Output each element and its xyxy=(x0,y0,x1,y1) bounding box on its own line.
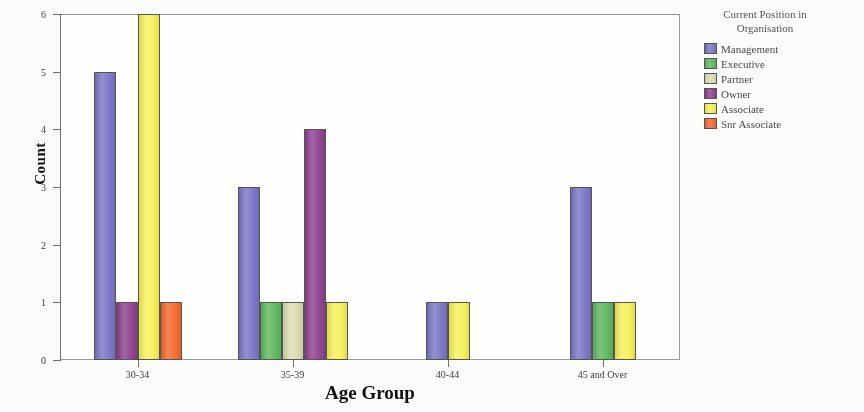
bar xyxy=(426,302,448,360)
y-axis-tick-label: 3 xyxy=(20,182,46,193)
legend-item-label: Partner xyxy=(721,73,753,85)
legend-item-label: Associate xyxy=(721,103,764,115)
legend-swatch-icon xyxy=(704,103,717,114)
bar-chart-figure: Count 0123456 30-3435-3940-4445 and Over… xyxy=(0,0,864,412)
bar xyxy=(304,129,326,360)
y-axis-tick-label: 2 xyxy=(20,239,46,250)
y-axis-tick-label: 0 xyxy=(20,355,46,366)
x-axis-tick xyxy=(138,360,139,367)
legend-item: Executive xyxy=(704,57,862,71)
legend-item: Management xyxy=(704,42,862,56)
x-axis-tick-label: 45 and Over xyxy=(578,369,627,380)
bars-layer xyxy=(60,14,680,360)
bar xyxy=(614,302,636,360)
x-axis-tick xyxy=(603,360,604,367)
bar xyxy=(448,302,470,360)
x-axis-tick-label: 30-34 xyxy=(126,369,149,380)
x-axis-tick-label: 40-44 xyxy=(436,369,459,380)
legend-item: Snr Associate xyxy=(704,117,862,131)
legend-item-label: Executive xyxy=(721,58,765,70)
bar xyxy=(238,187,260,360)
y-axis-tick xyxy=(53,360,61,361)
bar xyxy=(160,302,182,360)
legend-swatch-icon xyxy=(704,118,717,129)
legend-swatch-icon xyxy=(704,88,717,99)
bar xyxy=(326,302,348,360)
legend-item-label: Management xyxy=(721,43,778,55)
y-axis-tick-label: 6 xyxy=(20,9,46,20)
bar xyxy=(570,187,592,360)
bar xyxy=(138,14,160,360)
bar xyxy=(282,302,304,360)
legend-swatch-icon xyxy=(704,73,717,84)
x-axis-title: Age Group xyxy=(60,382,680,404)
x-axis-tick-label: 35-39 xyxy=(281,369,304,380)
bar xyxy=(116,302,138,360)
legend-title-line-1: Current Position in xyxy=(690,8,840,22)
legend-items: ManagementExecutivePartnerOwnerAssociate… xyxy=(704,42,862,131)
legend: Current Position in Organisation Managem… xyxy=(690,8,862,132)
legend-swatch-icon xyxy=(704,43,717,54)
legend-title: Current Position in Organisation xyxy=(690,8,840,36)
y-axis-title: Count xyxy=(32,104,49,224)
legend-item: Partner xyxy=(704,72,862,86)
x-axis-tick xyxy=(293,360,294,367)
legend-title-line-2: Organisation xyxy=(690,22,840,36)
legend-item: Owner xyxy=(704,87,862,101)
bar xyxy=(260,302,282,360)
y-axis-tick-label: 4 xyxy=(20,124,46,135)
x-axis-tick xyxy=(448,360,449,367)
legend-item-label: Snr Associate xyxy=(721,118,781,130)
bar xyxy=(94,72,116,360)
y-axis-tick-label: 1 xyxy=(20,297,46,308)
legend-swatch-icon xyxy=(704,58,717,69)
legend-item: Associate xyxy=(704,102,862,116)
legend-item-label: Owner xyxy=(721,88,751,100)
bar xyxy=(592,302,614,360)
y-axis-tick-label: 5 xyxy=(20,66,46,77)
